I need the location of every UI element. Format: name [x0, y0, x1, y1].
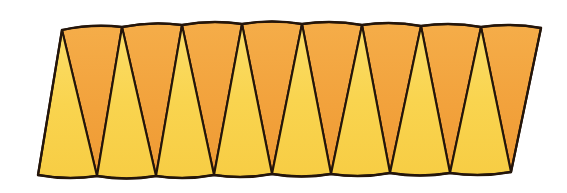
triangle-strip-figure: Triangular strip band Horizontal band co… — [0, 0, 567, 193]
